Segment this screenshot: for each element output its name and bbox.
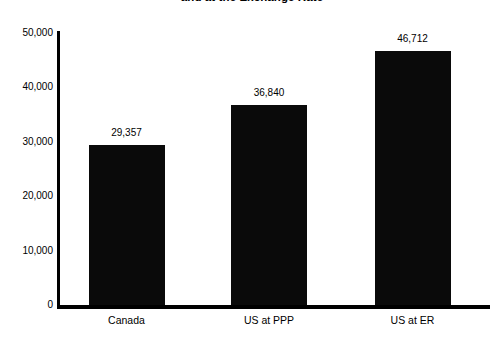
x-axis-category-label: US at ER: [353, 314, 473, 326]
y-axis-tick-label: 10,000: [5, 246, 53, 256]
y-axis-tick-labels: 010,00020,00030,00040,00050,000: [0, 0, 53, 337]
y-axis-tick-label: 50,000: [5, 28, 53, 38]
bar[interactable]: [375, 51, 451, 305]
y-axis-tick-label: 20,000: [5, 191, 53, 201]
y-axis-tick-label: 0: [5, 300, 53, 310]
bar-value-label: 29,357: [67, 128, 187, 138]
x-axis-category-label: US at PPP: [209, 314, 329, 326]
bar-chart-plot-area: 010,00020,00030,00040,00050,000 29,35736…: [0, 0, 504, 337]
bar[interactable]: [89, 145, 165, 305]
x-axis-line: [57, 305, 490, 309]
x-axis-category-label: Canada: [67, 314, 187, 326]
bar-value-label: 46,712: [353, 34, 473, 44]
bar[interactable]: [231, 105, 307, 305]
bar-value-label: 36,840: [209, 88, 329, 98]
y-axis-line: [57, 31, 60, 308]
y-axis-tick-label: 40,000: [5, 82, 53, 92]
y-axis-tick-label: 30,000: [5, 137, 53, 147]
